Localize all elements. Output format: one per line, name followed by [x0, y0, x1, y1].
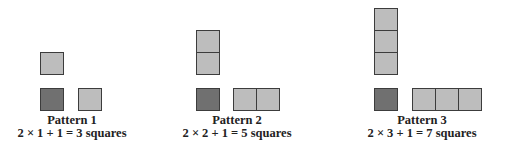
pattern-equation: 2 × 2 + 1 = 5 squares — [167, 127, 307, 140]
corner-square — [40, 88, 64, 111]
horizontal-square — [78, 88, 102, 111]
pattern-equation: 2 × 3 + 1 = 7 squares — [352, 127, 492, 140]
vertical-square — [196, 30, 220, 53]
horizontal-square — [435, 88, 459, 111]
vertical-square — [196, 52, 220, 75]
horizontal-square — [256, 88, 280, 111]
corner-square — [374, 88, 398, 111]
vertical-square — [374, 52, 398, 75]
horizontal-square — [412, 88, 436, 111]
vertical-square — [40, 52, 64, 75]
vertical-square — [374, 30, 398, 53]
corner-square — [196, 88, 220, 111]
horizontal-square — [458, 88, 482, 111]
horizontal-square — [233, 88, 257, 111]
pattern-equation: 2 × 1 + 1 = 3 squares — [2, 127, 142, 140]
vertical-square — [374, 8, 398, 31]
